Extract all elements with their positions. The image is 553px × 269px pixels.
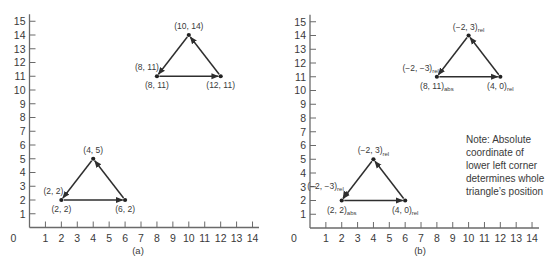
vertex-point — [340, 198, 344, 202]
x-tick-label: 0 — [291, 232, 297, 244]
point-label: (10, 14) — [174, 21, 203, 31]
point-label: (4, 0)rel — [392, 205, 419, 217]
x-tick-label: 3 — [355, 232, 361, 244]
y-tick-label: 8 — [300, 112, 306, 124]
y-tick-label: 9 — [300, 98, 306, 110]
x-tick-label: 14 — [526, 232, 538, 244]
y-tick-label: 15 — [294, 16, 306, 28]
y-tick-label: 2 — [20, 194, 26, 206]
point-label: (4, 0)rel — [487, 81, 514, 93]
triangle-edge — [95, 161, 124, 198]
x-tick-label: 11 — [199, 232, 210, 244]
point-label: (−2, −3)rel — [402, 63, 438, 75]
triangle-edge — [470, 37, 499, 74]
vertex-point — [498, 75, 502, 79]
point-label: (8, 11)abs — [420, 81, 454, 93]
y-tick-label: 2 — [300, 194, 306, 206]
x-tick-label: 7 — [138, 232, 144, 244]
y-tick-label: 12 — [14, 56, 26, 68]
point-label: (4, 5) — [83, 145, 103, 155]
note-text: Note: Absolutecoordinate oflower left co… — [466, 134, 545, 197]
y-tick-label: 6 — [300, 139, 306, 151]
y-tick-label: 1 — [300, 208, 306, 220]
y-tick-label: 13 — [294, 43, 306, 55]
x-tick-label: 6 — [122, 232, 128, 244]
y-tick-label: 4 — [20, 166, 26, 178]
triangle-edge — [63, 161, 92, 198]
x-tick-label: 13 — [231, 232, 243, 244]
x-tick-label: 11 — [479, 232, 490, 244]
triangle-edge — [190, 37, 219, 74]
y-tick-label: 10 — [14, 84, 26, 96]
x-tick-label: 6 — [402, 232, 408, 244]
y-tick-label: 3 — [20, 180, 26, 192]
point-label: (−2, −3)rel — [307, 181, 343, 193]
vertex-point — [91, 157, 95, 161]
x-tick-label: 1 — [43, 232, 49, 244]
lower-triangle: (2, 2)abs(−2, −3)rel(4, 0)rel(−2, 3)rel — [307, 145, 418, 216]
note-line: triangle’s position — [466, 186, 543, 197]
vertex-point — [155, 74, 159, 78]
note-line: lower left corner — [466, 160, 538, 171]
x-tick-label: 10 — [183, 232, 195, 244]
vertex-point — [219, 74, 223, 78]
note-line: coordinate of — [466, 147, 524, 158]
x-tick-label: 12 — [215, 232, 227, 244]
x-tick-label: 13 — [510, 232, 522, 244]
y-tick-label: 4 — [300, 167, 306, 179]
upper-triangle: (8, 11)(8, 11)(12, 11)(10, 14) — [135, 21, 235, 90]
x-tick-label: 4 — [90, 232, 96, 244]
y-tick-label: 5 — [20, 153, 26, 165]
vertex-point — [187, 33, 191, 37]
note-line: Note: Absolute — [466, 134, 531, 145]
y-tick-label: 8 — [20, 111, 26, 123]
point-label: (−2, 3)rel — [453, 22, 484, 34]
panel-caption: (a) — [132, 245, 144, 256]
panel-b: 0123456789101112131412345678910111213141… — [291, 15, 545, 256]
vertex-point — [467, 33, 471, 37]
x-tick-label: 8 — [434, 232, 440, 244]
figure: 0123456789101112131412345678910111213141… — [0, 0, 553, 269]
x-tick-label: 8 — [154, 232, 160, 244]
y-tick-label: 11 — [295, 71, 306, 83]
x-tick-label: 7 — [418, 232, 424, 244]
point-label: (2, 2)abs — [327, 205, 357, 217]
point-label: (8, 11) — [135, 62, 159, 72]
y-tick-label: 11 — [15, 70, 26, 82]
panel-caption: (b) — [414, 245, 426, 256]
y-tick-label: 6 — [20, 139, 26, 151]
point-label: (2, 2) — [51, 204, 71, 214]
x-tick-label: 3 — [74, 232, 80, 244]
y-tick-label: 5 — [300, 153, 306, 165]
x-tick-label: 5 — [106, 232, 112, 244]
x-tick-label: 12 — [494, 232, 506, 244]
y-tick-label: 1 — [20, 208, 26, 220]
y-tick-label: 7 — [300, 126, 306, 138]
vertex-point — [403, 198, 407, 202]
vertex-point — [435, 75, 439, 79]
triangle-edge — [375, 161, 404, 198]
y-tick-label: 13 — [14, 43, 26, 55]
x-tick-label: 9 — [170, 232, 176, 244]
lower-triangle: (2, 2)(2, 2)(6, 2)(4, 5) — [44, 145, 136, 214]
triangle-edge — [343, 161, 372, 198]
vertex-point — [123, 198, 127, 202]
triangle-edge — [158, 37, 187, 74]
panel-a: 0123456789101112131412345678910111213141… — [11, 14, 259, 256]
x-tick-label: 2 — [339, 232, 345, 244]
vertex-point — [59, 198, 63, 202]
x-tick-label: 2 — [58, 232, 64, 244]
vertex-point — [371, 157, 375, 161]
y-tick-label: 7 — [20, 125, 26, 137]
y-tick-label: 12 — [294, 57, 306, 69]
x-tick-label: 10 — [463, 232, 475, 244]
x-tick-label: 4 — [371, 232, 377, 244]
upper-triangle: (8, 11)abs(−2, −3)rel(4, 0)rel(−2, 3)rel — [402, 22, 513, 93]
y-tick-label: 9 — [20, 98, 26, 110]
y-tick-label: 3 — [300, 181, 306, 193]
y-tick-label: 15 — [14, 15, 26, 27]
point-label: (−2, 3)rel — [358, 145, 389, 157]
triangle-edge — [438, 37, 467, 74]
x-tick-label: 0 — [11, 232, 17, 244]
point-label: (6, 2) — [115, 204, 135, 214]
